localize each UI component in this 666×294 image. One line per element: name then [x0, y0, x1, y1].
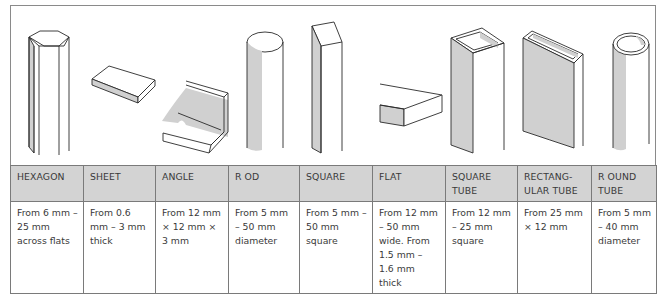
header-rectangular-tube: RECTANG-ULAR TUBE — [518, 166, 592, 202]
size-flat: From 12 mm – 50 mm wide. From 1.5 mm – 1… — [373, 202, 446, 294]
header-square-tube: SQUARE TUBE — [446, 166, 518, 202]
rectangular-tube-icon — [523, 31, 583, 148]
size-rod: From 5 mm – 50 mm diameter — [229, 202, 300, 294]
header-row: HEXAGON SHEET ANGLE R OD SQUARE FLAT SQU… — [11, 166, 657, 202]
size-square: From 5 mm – 50 mm square — [300, 202, 373, 294]
header-round-tube: R OUND TUBE — [592, 166, 657, 202]
angle-section-icon — [162, 81, 228, 153]
square-bar-icon — [312, 22, 342, 153]
size-hexagon: From 6 mm – 25 mm across flats — [11, 202, 84, 294]
header-sheet: SHEET — [84, 166, 156, 202]
size-rectangular-tube: From 25 mm × 12 mm — [518, 202, 592, 294]
header-square: SQUARE — [300, 166, 373, 202]
header-hexagon: HEXAGON — [11, 166, 84, 202]
hexagon-bar-icon — [29, 31, 69, 155]
round-tube-icon — [613, 33, 649, 150]
sheet-icon — [92, 66, 155, 103]
flat-bar-icon — [380, 84, 442, 126]
size-row: From 6 mm – 25 mm across flats From 0.6 … — [11, 202, 657, 294]
size-sheet: From 0.6 mm – 3 mm thick — [84, 202, 156, 294]
header-rod: R OD — [229, 166, 300, 202]
header-angle: ANGLE — [156, 166, 229, 202]
size-round-tube: From 5 mm – 40 mm diameter — [592, 202, 657, 294]
stock-forms-table: HEXAGON SHEET ANGLE R OD SQUARE FLAT SQU… — [10, 165, 657, 294]
round-rod-icon — [247, 32, 283, 151]
header-flat: FLAT — [373, 166, 446, 202]
square-tube-icon — [451, 28, 504, 153]
stock-forms-illustration — [10, 5, 656, 165]
size-square-tube: From 12 mm – 25 mm square — [446, 202, 518, 294]
size-angle: From 12 mm × 12 mm × 3 mm — [156, 202, 229, 294]
